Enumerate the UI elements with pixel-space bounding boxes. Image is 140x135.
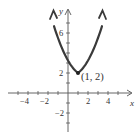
x-tick-label: 2 bbox=[86, 96, 90, 106]
vertex-label: (1, 2) bbox=[81, 71, 104, 83]
parabola-curve-right bbox=[78, 26, 102, 73]
y-axis-label: y bbox=[58, 6, 63, 16]
curve-arrow-right-icon bbox=[99, 11, 106, 20]
x-tick-label: −2 bbox=[40, 96, 49, 106]
y-tick-label: 6 bbox=[59, 28, 63, 38]
x-tick-label: −4 bbox=[20, 96, 30, 106]
vertex-point bbox=[76, 71, 80, 75]
x-tick-label: 4 bbox=[106, 96, 111, 106]
x-axis-label: x bbox=[129, 98, 134, 108]
y-tick-label: 2 bbox=[59, 68, 63, 78]
curve-arrow-left-icon bbox=[50, 11, 57, 20]
y-tick-label: −2 bbox=[55, 108, 64, 118]
parabola-graph: (1, 2) y x −4 −2 2 4 6 2 −2 bbox=[0, 0, 140, 135]
